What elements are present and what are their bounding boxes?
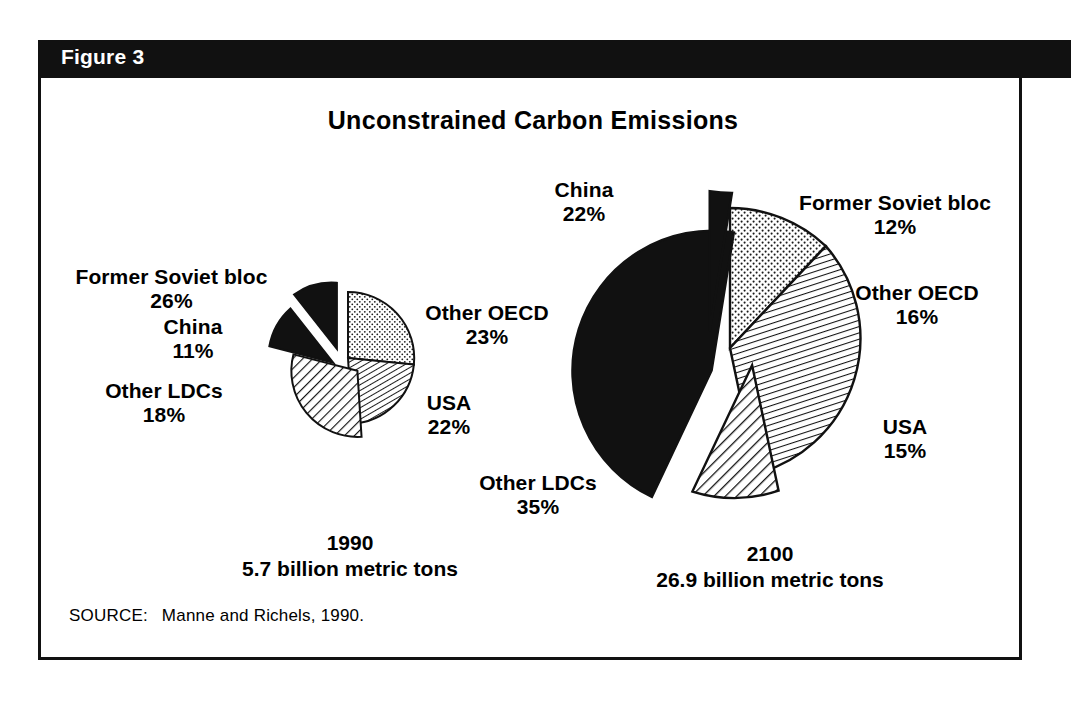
caption-1990-year: 1990 (191, 530, 509, 556)
caption-1990: 1990 5.7 billion metric tons (191, 530, 509, 581)
label-1990-china: China 11% (109, 315, 277, 362)
label-2100-usa: USA 15% (857, 415, 953, 462)
source-note-text: Manne and Richels, 1990. (162, 606, 364, 625)
label-2100-other-oecd-name: Other OECD (831, 281, 1003, 305)
label-2100-former-soviet-bloc: Former Soviet bloc 12% (783, 191, 1007, 238)
label-2100-other-oecd-pct: 16% (831, 305, 1003, 329)
label-2100-china: China 22% (529, 178, 639, 225)
label-1990-usa-pct: 22% (401, 415, 497, 439)
label-1990-china-pct: 11% (109, 339, 277, 363)
label-1990-other-ldcs: Other LDCs 18% (69, 379, 259, 426)
caption-2100-year: 2100 (605, 541, 935, 567)
label-2100-usa-name: USA (857, 415, 953, 439)
label-2100-former-soviet-bloc-pct: 12% (783, 215, 1007, 239)
source-note-label: SOURCE: (69, 606, 148, 625)
label-2100-other-ldcs: Other LDCs 35% (443, 471, 633, 518)
caption-2100-total: 26.9 billion metric tons (605, 567, 935, 593)
label-2100-other-ldcs-pct: 35% (443, 495, 633, 519)
label-2100-former-soviet-bloc-name: Former Soviet bloc (783, 191, 1007, 215)
label-1990-other-ldcs-pct: 18% (69, 403, 259, 427)
chart-canvas: Former Soviet bloc 26% China 11% Other L… (41, 43, 1025, 663)
label-2100-other-oecd: Other OECD 16% (831, 281, 1003, 328)
label-1990-usa: USA 22% (401, 391, 497, 438)
label-2100-china-name: China (529, 178, 639, 202)
source-note: SOURCE:Manne and Richels, 1990. (69, 606, 364, 626)
caption-2100: 2100 26.9 billion metric tons (605, 541, 935, 592)
label-1990-other-oecd-pct: 23% (401, 325, 573, 349)
label-1990-china-name: China (109, 315, 277, 339)
figure-frame: Figure 3 Unconstrained Carbon Emissions (38, 40, 1022, 660)
label-1990-other-ldcs-name: Other LDCs (69, 379, 259, 403)
label-1990-usa-name: USA (401, 391, 497, 415)
label-1990-former-soviet-bloc-pct: 26% (59, 289, 284, 313)
label-1990-other-oecd-name: Other OECD (401, 301, 573, 325)
label-2100-usa-pct: 15% (857, 439, 953, 463)
label-1990-former-soviet-bloc-name: Former Soviet bloc (59, 265, 284, 289)
label-2100-other-ldcs-name: Other LDCs (443, 471, 633, 495)
label-1990-other-oecd: Other OECD 23% (401, 301, 573, 348)
caption-1990-total: 5.7 billion metric tons (191, 556, 509, 582)
label-1990-former-soviet-bloc: Former Soviet bloc 26% (59, 265, 284, 312)
label-2100-china-pct: 22% (529, 202, 639, 226)
